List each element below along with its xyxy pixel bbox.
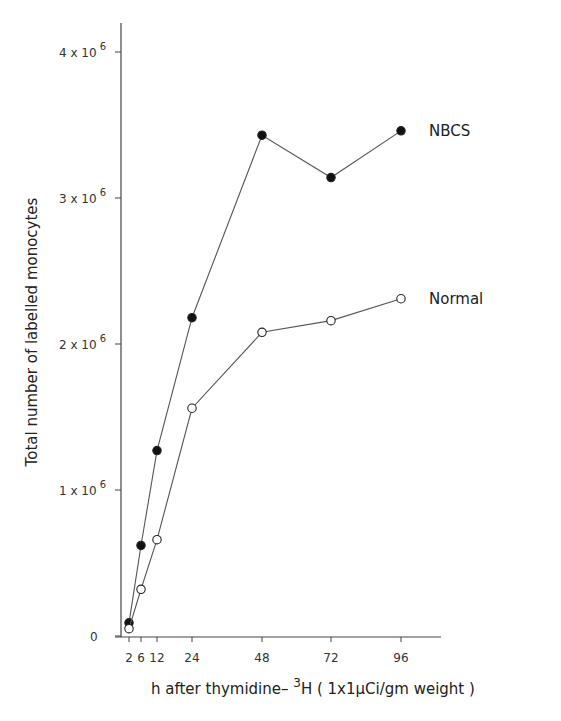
open-circle-marker — [397, 295, 405, 303]
series-line — [129, 131, 401, 623]
x-tick-label: 72 — [323, 651, 338, 665]
tick-marks — [115, 52, 401, 642]
x-tick-label: 24 — [184, 651, 199, 665]
series-layer — [125, 127, 405, 633]
series-nbcs — [125, 127, 405, 627]
series-normal — [125, 295, 405, 633]
y-tick-label: 3 x 10 6 — [59, 187, 106, 206]
filled-circle-marker — [397, 127, 405, 135]
y-tick-label: 1 x 10 6 — [59, 479, 106, 498]
open-circle-marker — [258, 328, 266, 336]
y-tick-label: 4 x 10 6 — [59, 41, 106, 60]
filled-circle-marker — [137, 541, 145, 549]
x-axis-title: h after thymidine– 3H ( 1x1µCi/gm weight… — [151, 676, 475, 698]
filled-circle-marker — [327, 173, 335, 181]
line-chart: 01 x 10 62 x 10 63 x 10 64 x 10 62612244… — [0, 0, 561, 721]
open-circle-marker — [137, 585, 145, 593]
x-tick-label: 48 — [254, 651, 269, 665]
x-tick-label: 2 — [125, 651, 133, 665]
series-label-normal: Normal — [429, 290, 483, 308]
x-tick-label: 6 — [137, 651, 145, 665]
filled-circle-marker — [153, 446, 161, 454]
filled-circle-marker — [188, 314, 196, 322]
filled-circle-marker — [258, 131, 266, 139]
open-circle-marker — [125, 625, 133, 633]
y-tick-label: 0 — [90, 630, 98, 644]
y-axis-title: Total number of labelled monocytes — [23, 197, 41, 467]
series-line — [129, 299, 401, 629]
open-circle-marker — [327, 316, 335, 324]
open-circle-marker — [153, 535, 161, 543]
labels: 01 x 10 62 x 10 63 x 10 64 x 10 62612244… — [23, 41, 483, 698]
open-circle-marker — [188, 404, 196, 412]
x-tick-label: 12 — [149, 651, 164, 665]
series-label-nbcs: NBCS — [429, 122, 470, 140]
y-tick-label: 2 x 10 6 — [59, 333, 106, 352]
x-tick-label: 96 — [393, 651, 408, 665]
